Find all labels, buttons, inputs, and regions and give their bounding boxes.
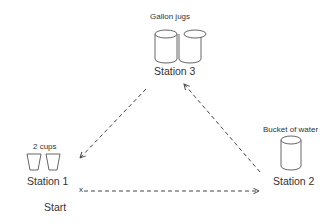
start-marker: x xyxy=(79,185,83,194)
station-3-label: Station 3 xyxy=(154,65,195,77)
start-label: Start xyxy=(44,201,66,213)
cups-label: 2 cups xyxy=(33,142,57,151)
jugs-label: Gallon jugs xyxy=(150,12,190,21)
arrow-station-3-to-station-1 xyxy=(80,89,146,158)
station-1-label: Station 1 xyxy=(27,175,68,187)
diagram-graphics xyxy=(0,0,335,224)
bucket-icon xyxy=(281,136,301,170)
arrow-station-2-to-station-3 xyxy=(184,84,260,172)
station-2-label: Station 2 xyxy=(273,175,314,187)
bucket-label: Bucket of water xyxy=(263,125,318,134)
jug-icon xyxy=(155,30,206,63)
cup-icon xyxy=(27,154,60,170)
